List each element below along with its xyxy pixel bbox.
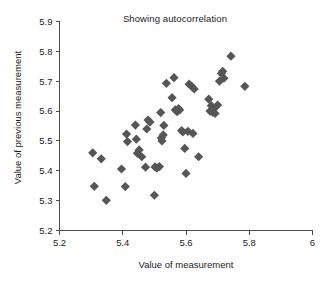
data-point-marker: [226, 52, 235, 61]
y-tick-label: 5.3: [39, 195, 52, 206]
data-point-marker: [123, 137, 132, 146]
data-point-marker: [181, 169, 190, 178]
x-axis-label: Value of measurement: [60, 259, 312, 270]
data-point-marker: [117, 164, 126, 173]
data-point-marker: [159, 121, 168, 130]
y-axis-label: Value of previous measurement: [12, 13, 23, 223]
data-point-marker: [102, 196, 111, 205]
data-point-marker: [90, 182, 99, 191]
data-point-marker: [167, 93, 176, 102]
data-markers-group: [88, 52, 249, 205]
data-point-marker: [122, 129, 131, 138]
x-tick-label: 6: [310, 237, 315, 248]
y-tick-label: 5.4: [39, 165, 52, 176]
data-point-marker: [88, 148, 97, 157]
data-point-marker: [169, 73, 178, 82]
data-point-marker: [121, 182, 130, 191]
x-tick-label: 5.8: [243, 237, 256, 248]
axes-group: 5.25.35.45.55.65.75.85.95.25.45.65.86: [39, 16, 315, 248]
y-tick-label: 5.7: [39, 76, 52, 87]
y-tick-label: 5.5: [39, 135, 52, 146]
data-point-marker: [132, 135, 141, 144]
y-tick-label: 5.9: [39, 16, 52, 27]
data-point-marker: [156, 108, 165, 117]
x-tick-label: 5.6: [179, 237, 192, 248]
data-point-marker: [240, 82, 249, 91]
scatter-plot-figure: Showing autocorrelation 5.25.35.45.55.65…: [0, 0, 329, 283]
x-tick-label: 5.4: [116, 237, 129, 248]
data-point-marker: [180, 144, 189, 153]
plot-canvas: 5.25.35.45.55.65.75.85.95.25.45.65.86: [0, 0, 329, 283]
y-tick-label: 5.2: [39, 225, 52, 236]
data-point-marker: [194, 152, 203, 161]
y-tick-label: 5.6: [39, 105, 52, 116]
data-point-marker: [162, 79, 171, 88]
y-tick-label: 5.8: [39, 46, 52, 57]
data-point-marker: [97, 154, 106, 163]
data-point-marker: [141, 163, 150, 172]
data-point-marker: [131, 121, 140, 130]
x-tick-label: 5.2: [53, 237, 66, 248]
data-point-marker: [150, 191, 159, 200]
